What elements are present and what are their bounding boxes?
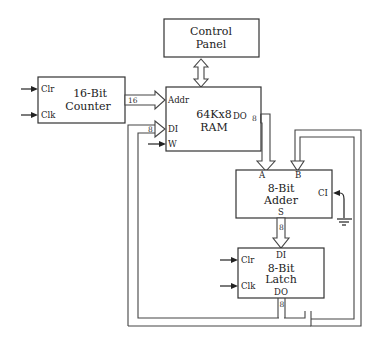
ram-block: 64Kx8 RAM Addr DI W DO	[166, 87, 261, 151]
adder-ci-pin: CI	[318, 188, 328, 198]
counter-clr-pin: Clr	[41, 84, 55, 94]
control-panel-label-1: Control	[190, 25, 232, 38]
control-panel-label-2: Panel	[196, 38, 227, 51]
ram-di-arrowhead	[155, 121, 165, 137]
ram-label-1: 64Kx8	[196, 108, 231, 121]
ground-symbol	[333, 190, 352, 225]
adder-a-pin: A	[258, 170, 266, 180]
ram-label-2: RAM	[200, 121, 228, 134]
latch-do-pin: DO	[274, 287, 288, 297]
latch-clr-input-arrow	[220, 257, 238, 263]
counter-clk-input-arrow	[21, 112, 38, 118]
latch-clk-input-arrow	[220, 283, 238, 289]
ram-di-pin: DI	[168, 124, 178, 134]
ram-do-width-label: 8	[252, 114, 257, 123]
latch-block: DI 8-Bit Latch DO Clr Clk	[238, 248, 324, 298]
control-panel-block: Control Panel	[164, 19, 259, 57]
ram-w-input-arrow	[148, 141, 166, 147]
ram-addr-pin: Addr	[167, 95, 190, 105]
counter-label-1: 16-Bit	[73, 87, 107, 100]
ram-di-width-label: 8	[148, 125, 153, 134]
latch-di-pin: DI	[276, 250, 286, 260]
latch-do-junction	[279, 317, 284, 320]
latch-clk-pin: Clk	[241, 281, 256, 291]
adder-label-2: Adder	[263, 194, 299, 207]
adder-s-width-label: 8	[279, 223, 284, 232]
latch-do-width-label: 8	[280, 300, 285, 309]
latch-clr-pin: Clr	[241, 255, 255, 265]
adder-b-pin: B	[295, 170, 301, 180]
adder-block: A B 8-Bit Adder S CI	[236, 170, 332, 218]
latch-label-2: Latch	[265, 273, 297, 286]
control-ram-bidirectional-arrow	[194, 59, 208, 87]
counter-label-2: Counter	[65, 100, 111, 113]
ram-do-pin: DO	[233, 111, 247, 121]
block-diagram: Control Panel 16-Bit Counter Clr Clk 64K…	[0, 0, 380, 344]
counter-clk-pin: Clk	[41, 110, 56, 120]
counter-block: 16-Bit Counter Clr Clk	[38, 77, 125, 123]
counter-clr-input-arrow	[21, 86, 38, 92]
adder-s-pin: S	[278, 207, 284, 217]
counter-bus-width-label: 16	[128, 96, 138, 105]
ram-w-pin: W	[168, 139, 177, 149]
